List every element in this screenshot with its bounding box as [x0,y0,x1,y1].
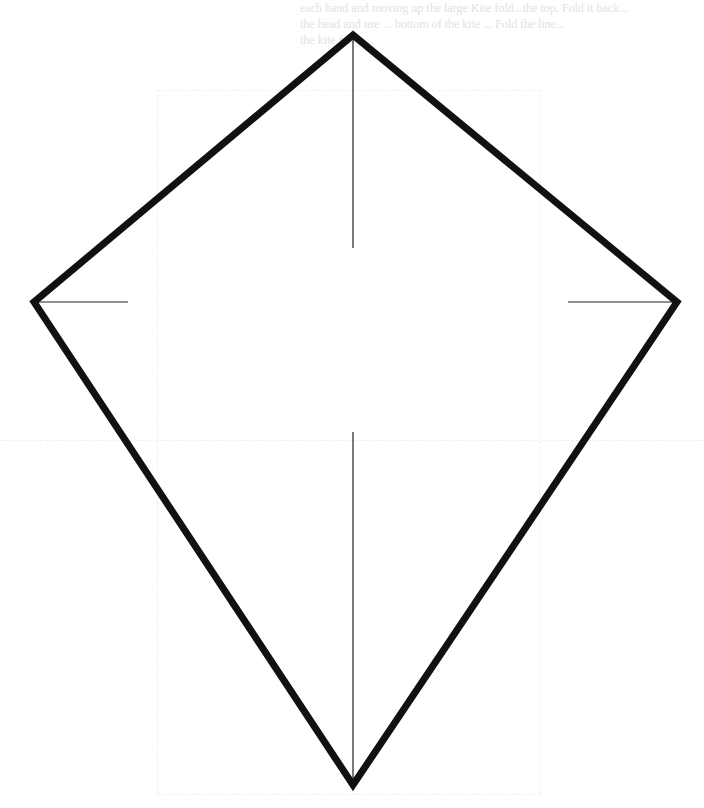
kite-guide-lines [34,35,677,785]
kite-diagram [0,0,704,808]
kite-outline [34,35,677,785]
